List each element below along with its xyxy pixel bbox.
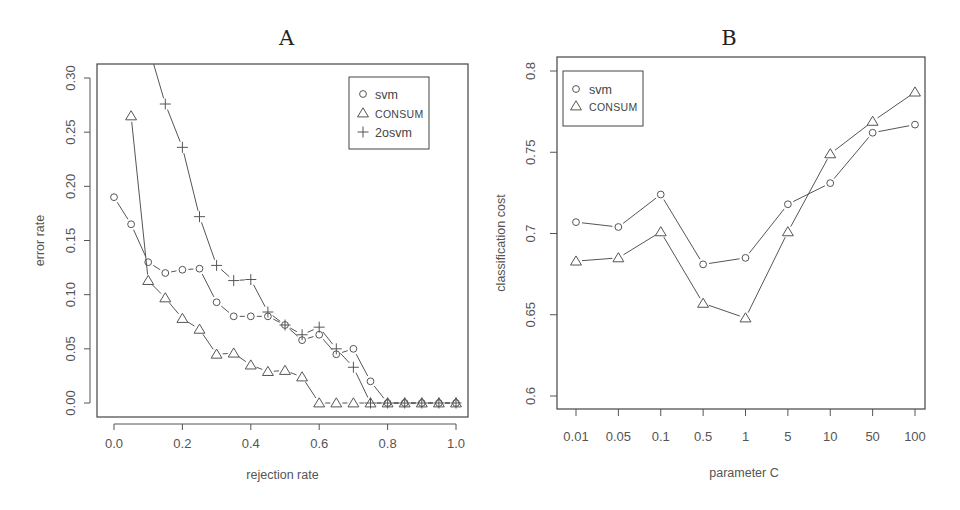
legend-box [563,71,643,126]
y-tick-label: 0.10 [63,282,78,307]
series-consum [126,111,462,407]
series-line-segment [254,285,266,307]
circle-marker [573,219,580,226]
series-line-segment [879,126,910,132]
x-tick-label: 10 [823,429,837,444]
x-tick-label: 0.2 [173,436,191,451]
x-tick-label: 0.05 [606,429,631,444]
circle-marker [912,121,919,128]
series-line-segment [184,153,198,211]
circle-marker [247,313,254,320]
legend-label: CONSUM [589,101,637,113]
y-tick-label: 0.7 [523,224,538,242]
triangle-marker [698,298,709,307]
y-tick-label: 0.30 [63,65,78,90]
legend-label: svm [589,83,612,97]
series-line-segment [791,159,828,226]
y-tick-label: 0.65 [523,302,538,327]
series-line-segment [221,306,229,312]
plus-marker [348,362,359,373]
chart-panel-a: A0.000.050.100.150.200.250.30error rate0… [33,26,468,482]
triangle-marker [331,398,342,407]
series-line-segment [340,353,349,363]
circle-marker [128,221,135,228]
series-line-segment [201,222,214,259]
y-tick-label: 0.15 [63,228,78,253]
figure: A0.000.050.100.150.200.250.30error rate0… [0,0,960,510]
series-line-segment [356,354,368,376]
circle-marker [213,299,220,306]
series-line-segment [308,337,314,339]
series-line-segment [221,269,229,276]
series-line-segment [117,202,128,219]
circle-marker [869,129,876,136]
series-line-segment [153,265,160,269]
series-line-segment [709,259,740,264]
series-line-segment [835,125,868,150]
series-line-segment [171,271,176,272]
series-line-segment [664,237,700,298]
triangle-marker [740,313,751,322]
series-line-segment [623,198,656,223]
series-line-segment [150,51,164,98]
series-line-segment [374,386,384,398]
series-line-segment [834,137,869,178]
plus-marker [228,275,239,286]
series-line-segment [291,373,297,375]
triangle-marker [613,253,624,262]
plus-marker [194,211,205,222]
plus-marker [177,142,188,153]
triangle-marker [211,349,222,358]
triangle-marker [825,149,836,158]
series-line-segment [203,334,213,349]
plus-marker [297,329,308,340]
triangle-marker [280,365,291,374]
legend: svmCONSUM [563,71,643,126]
x-axis-label: rejection rate [246,468,318,482]
x-tick-label: 0.4 [242,436,260,451]
chart-panel-b: B0.60.650.70.750.8classification cost0.0… [494,26,926,480]
series-line-segment [709,305,740,316]
y-tick-label: 0.20 [63,174,78,199]
triangle-marker [194,324,205,333]
chart-title: B [721,26,736,50]
plus-marker [314,322,325,333]
y-axis-label: classification cost [494,194,508,292]
series-line-segment [878,96,910,118]
x-tick-label: 0.0 [105,436,123,451]
x-axis-label: parameter C [709,466,778,480]
triangle-marker [655,227,666,236]
circle-marker [742,254,749,261]
series-line-segment [748,237,785,312]
triangle-marker [867,116,878,125]
circle-marker [700,261,707,268]
series-line-segment [323,332,333,344]
legend-label: CONSUM [375,108,423,120]
x-tick-label: 50 [865,429,879,444]
series-line-segment [187,322,194,326]
series-line-segment [202,274,214,297]
plus-marker [280,320,291,331]
legend: svmCONSUM2osvm [349,77,429,149]
circle-marker [367,378,374,385]
plus-marker [245,274,256,285]
series-line-segment [256,367,262,369]
series-line-segment [323,339,332,349]
series-line-segment [169,303,178,314]
series-line-segment [305,382,316,398]
series-line-segment [342,351,348,353]
series-line-segment [582,258,612,260]
triangle-marker [348,398,359,407]
plus-marker [211,260,222,271]
x-tick-label: 5 [784,429,791,444]
y-axis-label: error rate [33,215,47,266]
series-line-segment [356,373,368,398]
x-tick-label: 0.6 [310,436,328,451]
triangle-marker [228,348,239,357]
triangle-marker [245,360,256,369]
series-line-segment [168,110,181,142]
series-line-segment [582,223,612,227]
chart-title: A [278,26,295,50]
triangle-marker [126,111,137,120]
circle-marker [196,265,203,272]
